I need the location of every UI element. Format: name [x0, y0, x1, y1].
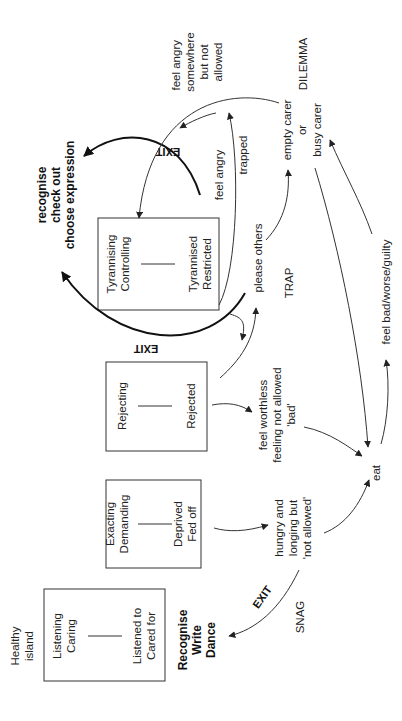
rwd-line-1: Recognise [176, 609, 190, 670]
arrow-to-angry-somewhere [180, 113, 216, 128]
rco-line-1: recognise [35, 166, 49, 223]
angry-somewhere-line-2: somewhere [184, 32, 196, 91]
box-exacting-top-1: Exacting [104, 502, 116, 546]
label-please-others: please others [252, 223, 264, 292]
arrow-eat-to-feel-bad [381, 360, 388, 444]
hungry-line-2: longing but [287, 499, 299, 556]
exit-middle-text: EXIT [133, 343, 158, 355]
arrow-to-please-others [230, 314, 244, 340]
label-recognise-check-out: recognise check out choose expression [35, 141, 77, 250]
label-feel-worthless: feel worthless feeling not allowed 'bad' [257, 367, 297, 462]
please-others-text: please others [252, 223, 264, 292]
label-dilemma: DILEMMA [297, 37, 309, 90]
box-rejecting: Rejecting Rejected [106, 362, 207, 451]
exit-bottom-text: EXIT [250, 583, 274, 610]
box-exacting-bottom-2: Fed off [186, 505, 198, 541]
diagram-canvas: Listening Caring Listened to Cared for E… [0, 0, 402, 721]
box-healthy: Listening Caring Listened to Cared for [44, 589, 165, 681]
angry-somewhere-line-3: but not [198, 44, 210, 80]
box-tyrannising: Tyrannising Controlling Tyrannised Restr… [98, 218, 219, 310]
carer-line-1: empty carer [281, 99, 293, 160]
arrow-worthless-to-eat [304, 427, 362, 456]
label-trap: TRAP [283, 267, 295, 298]
arrow-rejected-to-worthless [212, 404, 252, 412]
box-tyrannising-bottom-1: Tyrannised [187, 236, 199, 292]
box-healthy-top-1: Listening [51, 613, 63, 659]
rwd-line-2: Write [190, 625, 204, 655]
exit-arrow-middle [62, 272, 245, 335]
snag-text: SNAG [294, 601, 306, 634]
box-healthy-top-2: Caring [65, 619, 77, 653]
hungry-line-1: hungry and [273, 499, 285, 557]
carer-line-3: busy carer [311, 103, 323, 157]
angry-trapped-line-2: trapped [237, 135, 249, 174]
label-healthy-island: Healthy island [9, 626, 35, 665]
arrow-please-to-carer [266, 170, 288, 240]
exit-label-middle: EXIT [133, 343, 158, 355]
feel-bad-text: feel bad/worse/guilty [380, 239, 392, 344]
label-feel-bad: feel bad/worse/guilty [380, 239, 392, 344]
box-exacting: Exacting Demanding Deprived Fed off [104, 480, 201, 568]
carer-line-2: or [296, 125, 308, 135]
exit-label-bottom: EXIT [250, 583, 274, 610]
angry-somewhere-line-1: feel angry [170, 40, 182, 91]
worthless-line-3: 'bad' [285, 403, 297, 427]
arrow-rejected-to-please [220, 308, 256, 378]
rwd-line-3: Dance [204, 622, 218, 658]
arrow-feel-bad-to-carer [330, 140, 372, 234]
label-hungry: hungry and longing but 'not allowed' [273, 497, 313, 560]
box-healthy-bottom-2: Cared for [145, 612, 157, 660]
angry-trapped-line-1: feel angry [213, 150, 225, 201]
healthy-island-line-1: Healthy [9, 626, 21, 665]
label-feel-angry-somewhere: feel angry somewhere but not allowed [170, 32, 224, 91]
box-exacting-top-2: Demanding [118, 495, 130, 554]
box-rejecting-bottom-1: Rejected [185, 383, 197, 428]
arrow-deprived-to-hungry [214, 525, 268, 531]
box-healthy-bottom-1: Listened to [131, 608, 143, 664]
box-exacting-bottom-1: Deprived [172, 501, 184, 547]
exit-arrow-top [84, 138, 200, 195]
arrow-trapped-up [219, 113, 236, 305]
label-recognise-write-dance: Recognise Write Dance [176, 609, 218, 670]
arrow-carer-to-eat [315, 168, 368, 447]
box-rejecting-top-1: Rejecting [116, 382, 128, 430]
box-tyrannising-top-2: Controlling [119, 237, 131, 292]
dilemma-text: DILEMMA [297, 37, 309, 90]
rco-line-3: choose expression [63, 141, 77, 250]
label-eat: eat [370, 464, 382, 481]
healthy-island-line-2: island [23, 631, 35, 661]
box-tyrannising-top-1: Tyrannising [105, 235, 117, 294]
label-snag: SNAG [294, 601, 306, 634]
worthless-line-1: feel worthless [257, 380, 269, 451]
arrow-hungry-to-eat [324, 480, 369, 533]
box-tyrannising-bottom-2: Restricted [201, 238, 213, 290]
trap-text: TRAP [283, 267, 295, 298]
worthless-line-2: feeling not allowed [271, 367, 283, 462]
hungry-line-3: 'not allowed' [301, 497, 313, 560]
label-carer: empty carer or busy carer [281, 99, 323, 160]
rco-line-2: check out [49, 167, 63, 223]
label-feel-angry-trapped: feel angry trapped [213, 135, 249, 200]
angry-somewhere-line-4: allowed [212, 43, 224, 82]
eat-text: eat [370, 464, 382, 481]
